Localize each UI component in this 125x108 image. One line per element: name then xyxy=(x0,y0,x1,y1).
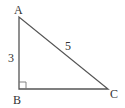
vertex-label-c: C xyxy=(110,87,118,101)
triangle-abc xyxy=(19,17,108,89)
right-angle-marker xyxy=(19,82,26,89)
side-label-ab: 3 xyxy=(8,51,14,65)
vertex-label-b: B xyxy=(13,93,21,107)
triangle-diagram: A B C 3 5 xyxy=(0,0,125,108)
side-label-ac: 5 xyxy=(65,39,71,53)
vertex-label-a: A xyxy=(14,3,23,17)
